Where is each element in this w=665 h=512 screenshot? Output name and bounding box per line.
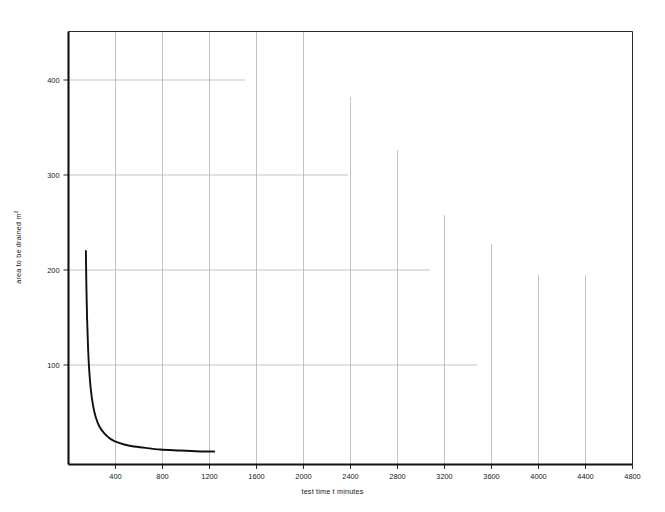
x-axis-title: test time t minutes xyxy=(0,487,665,496)
x-tick-label: 800 xyxy=(156,472,168,481)
y-axis-title-wrapper: area to be drained m2 xyxy=(7,167,25,327)
x-tick-label: 4000 xyxy=(530,472,546,481)
x-tick-label: 3200 xyxy=(436,472,452,481)
x-tick-label: 1600 xyxy=(248,472,264,481)
tick-marks xyxy=(64,80,633,469)
x-tick-label: 1200 xyxy=(201,472,217,481)
x-tick-label: 2000 xyxy=(295,472,311,481)
y-tick-label: 200 xyxy=(47,266,59,275)
x-tick-label: 3600 xyxy=(483,472,499,481)
y-axis-title-superscript: 2 xyxy=(13,210,19,213)
chart-figure: 4008001200160020002400280032003600400044… xyxy=(0,0,665,512)
grid-layer xyxy=(69,32,586,465)
chart-canvas: 4008001200160020002400280032003600400044… xyxy=(0,0,665,512)
y-tick-label: 100 xyxy=(47,361,59,370)
curve-series-0 xyxy=(86,251,214,452)
y-tick-label: 300 xyxy=(47,171,59,180)
x-tick-label: 400 xyxy=(109,472,121,481)
x-tick-label: 2800 xyxy=(389,472,405,481)
data-curves xyxy=(86,251,214,452)
y-axis-title-text: area to be drained m xyxy=(14,213,23,283)
tick-labels: 4008001200160020002400280032003600400044… xyxy=(47,76,641,481)
x-tick-label: 4400 xyxy=(577,472,593,481)
y-axis-title: area to be drained m2 xyxy=(13,210,23,283)
x-tick-label: 4800 xyxy=(624,472,640,481)
x-tick-label: 2400 xyxy=(342,472,358,481)
y-tick-label: 400 xyxy=(47,76,59,85)
